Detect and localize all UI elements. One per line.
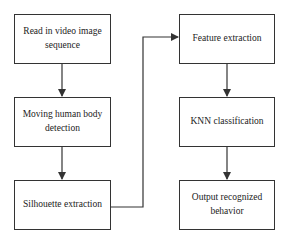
node-label: Read in video image sequence: [19, 25, 106, 53]
node-body-detection: Moving human body detection: [14, 97, 111, 147]
arrow-n3-n4: [111, 37, 178, 207]
node-label: Silhouette extraction: [23, 198, 102, 212]
node-label: Output recognized behavior: [184, 191, 270, 219]
node-label: KNN classification: [190, 115, 263, 129]
node-silhouette: Silhouette extraction: [14, 180, 111, 230]
node-feature-extraction: Feature extraction: [179, 14, 275, 64]
node-label: Moving human body detection: [19, 108, 106, 136]
node-read-video: Read in video image sequence: [14, 14, 111, 64]
node-output: Output recognized behavior: [179, 180, 275, 230]
flowchart: Read in video image sequence Moving huma…: [0, 0, 289, 243]
node-label: Feature extraction: [193, 32, 262, 46]
node-knn: KNN classification: [179, 97, 275, 147]
